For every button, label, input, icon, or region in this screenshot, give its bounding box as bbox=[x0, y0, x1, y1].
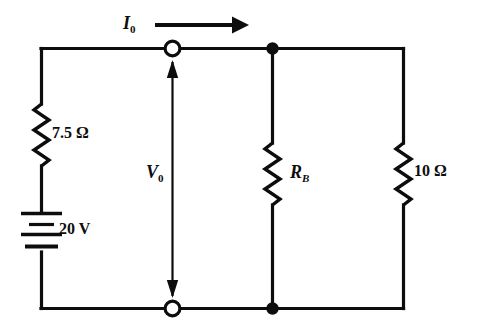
bottom-terminal-node bbox=[165, 301, 180, 316]
circuit-diagram: I0 V0 RB 7.5 Ω 10 Ω 20 V bbox=[0, 0, 478, 328]
series-resistor-symbol bbox=[34, 104, 49, 166]
bottom-junction-node bbox=[266, 302, 278, 314]
circuit-schematic-svg bbox=[0, 0, 478, 328]
load-resistor-label: RB bbox=[290, 163, 309, 181]
voltage-subscript: 0 bbox=[158, 172, 164, 184]
top-junction-node bbox=[266, 42, 278, 54]
voltage-source-label: 20 V bbox=[59, 221, 90, 237]
parallel-resistor-label: 10 Ω bbox=[414, 163, 447, 179]
load-resistor-subscript: B bbox=[302, 172, 309, 184]
load-resistor-symbol bbox=[265, 143, 280, 205]
battery-symbol bbox=[21, 214, 62, 247]
current-arrow bbox=[155, 17, 249, 34]
current-label: I0 bbox=[123, 14, 136, 32]
current-subscript: 0 bbox=[130, 23, 136, 35]
voltage-arrowhead-up bbox=[167, 60, 178, 78]
voltage-symbol: V bbox=[146, 162, 158, 182]
voltage-arrowhead-down bbox=[167, 280, 178, 298]
load-resistor-symbol-text: R bbox=[290, 162, 302, 182]
voltage-arrow bbox=[167, 60, 178, 298]
top-terminal-node bbox=[165, 41, 180, 56]
parallel-resistor-symbol bbox=[396, 143, 411, 205]
series-resistor-label: 7.5 Ω bbox=[52, 125, 89, 141]
voltage-label: V0 bbox=[146, 163, 164, 181]
current-symbol: I bbox=[123, 13, 130, 33]
